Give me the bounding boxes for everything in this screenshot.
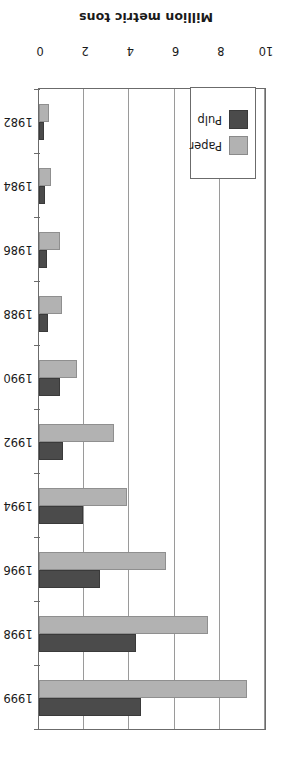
legend-item-pulp: Pulp <box>198 111 248 130</box>
category-label-1988: 1988 <box>0 307 36 321</box>
legend-item-paper: Paper <box>198 137 248 156</box>
bar-paper-1998 <box>39 616 209 634</box>
chart-legend: Paper Pulp <box>190 87 256 179</box>
category-label-1998: 1998 <box>0 627 36 641</box>
bar-group <box>39 281 265 345</box>
bar-pulp-1994 <box>39 506 83 524</box>
plot-inner <box>39 89 265 729</box>
bar-group <box>39 601 265 665</box>
bar-pulp-1986 <box>39 250 47 268</box>
legend-label-paper: Paper <box>189 139 222 153</box>
value-tick-label: 2 <box>82 44 89 58</box>
value-tick-label: 10 <box>259 44 274 58</box>
category-label-1994: 1994 <box>0 499 36 513</box>
value-tick-label: 8 <box>217 44 224 58</box>
value-axis-title: Million metric tons <box>0 10 292 25</box>
bar-group <box>39 217 265 281</box>
bar-group <box>39 409 265 473</box>
bar-paper-1999 <box>39 680 247 698</box>
bar-paper-1990 <box>39 360 77 378</box>
bar-group <box>39 537 265 601</box>
category-axis-labels: 1982198419861988199019921994199619981999 <box>0 90 36 730</box>
bar-pulp-1988 <box>39 314 48 332</box>
plot-area <box>39 88 266 730</box>
chart-stage: 1982198419861988199019921994199619981999… <box>0 0 292 764</box>
category-label-1990: 1990 <box>0 371 36 385</box>
bar-group <box>39 473 265 537</box>
category-label-1986: 1986 <box>0 243 36 257</box>
value-tick-label: 6 <box>172 44 179 58</box>
bar-paper-1994 <box>39 488 127 506</box>
bar-paper-1988 <box>39 296 62 314</box>
bar-pulp-1999 <box>39 698 141 716</box>
value-axis-tick-labels: 0246810 <box>0 40 292 58</box>
bar-pulp-1996 <box>39 570 100 588</box>
category-label-1982: 1982 <box>0 115 36 129</box>
bar-paper-1984 <box>39 168 51 186</box>
category-label-1996: 1996 <box>0 563 36 577</box>
legend-label-pulp: Pulp <box>197 113 222 127</box>
bar-pulp-1992 <box>39 442 63 460</box>
bar-chart-figure: 1982198419861988199019921994199619981999… <box>0 0 292 764</box>
bar-pulp-1998 <box>39 634 136 652</box>
bar-group <box>39 665 265 729</box>
bar-paper-1982 <box>39 104 49 122</box>
bar-paper-1996 <box>39 552 166 570</box>
category-label-1984: 1984 <box>0 179 36 193</box>
bar-group <box>39 345 265 409</box>
bar-paper-1992 <box>39 424 114 442</box>
category-label-1999: 1999 <box>0 691 36 705</box>
bar-pulp-1990 <box>39 378 60 396</box>
bar-paper-1986 <box>39 232 60 250</box>
paper-swatch-icon <box>229 137 248 156</box>
category-label-1992: 1992 <box>0 435 36 449</box>
pulp-swatch-icon <box>229 111 248 130</box>
value-tick-label: 4 <box>127 44 134 58</box>
value-tick-label: 0 <box>36 44 43 58</box>
